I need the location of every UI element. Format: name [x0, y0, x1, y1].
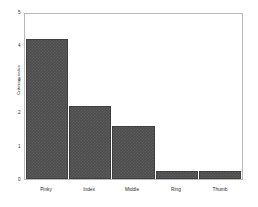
plot-area — [24, 13, 243, 180]
bar-middle[interactable] — [112, 126, 154, 179]
y-tick-label-2: 2 — [0, 109, 24, 117]
y-tick-label-0: 0 — [0, 176, 24, 184]
bar-slot-middle — [112, 14, 154, 179]
bar-slot-index — [69, 14, 111, 179]
bar-index[interactable] — [69, 106, 111, 179]
x-tick-label-thumb: Thumb — [213, 185, 228, 194]
bar-chart-figure: Criterion value 0 1 2 3 4 5 — [0, 0, 258, 207]
x-tick-label-index: Index — [83, 185, 95, 194]
x-tick-label-ring: Ring — [171, 185, 181, 194]
bar-series — [25, 14, 242, 179]
bar-slot-thumb — [199, 14, 241, 179]
y-tick-label-3: 3 — [0, 76, 24, 84]
x-tick-label-pinky: Pinky — [40, 185, 52, 194]
y-tick-label-4: 4 — [0, 42, 24, 50]
x-tick-label-middle: Middle — [125, 185, 139, 194]
bar-thumb[interactable] — [199, 171, 241, 179]
y-tick-label-1: 1 — [0, 143, 24, 151]
y-tick-label-5: 5 — [0, 9, 24, 17]
bar-pinky[interactable] — [26, 39, 68, 179]
bar-slot-pinky — [26, 14, 68, 179]
bar-slot-ring — [156, 14, 198, 179]
bar-ring[interactable] — [156, 171, 198, 179]
